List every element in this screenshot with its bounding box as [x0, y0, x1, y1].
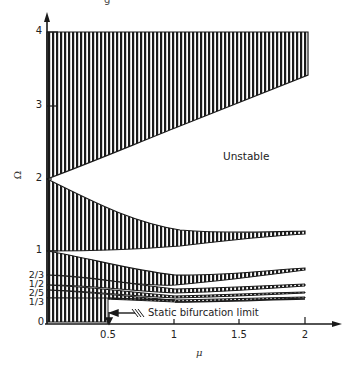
x-tick-label-0-5: 0.5: [96, 330, 120, 340]
tongue-omega-2-lower: [47, 179, 305, 251]
y-tick-label-4: 4: [18, 26, 42, 36]
y-tick-label-3: 3: [18, 100, 42, 110]
y-tick-label-1: 1: [18, 245, 42, 255]
static-unstable-region: [47, 298, 108, 322]
x-tick-label-1: 1: [162, 330, 186, 340]
x-ticks: [108, 317, 305, 324]
static-bifurcation-limit-label: Static bifurcation limit: [148, 308, 259, 318]
y-axis-title: Ω: [13, 171, 23, 179]
x-axis-arrow-icon: [332, 321, 342, 327]
unstable-label: Unstable: [223, 151, 269, 162]
y-axis-arrow-icon: [44, 12, 50, 22]
cutoff-text: g: [104, 0, 110, 5]
y-tick-label-0: 0: [20, 317, 44, 327]
static-limit-arrow-icon: [106, 309, 144, 324]
x-tick-label-2: 2: [293, 330, 317, 340]
y-tick-label-1-3: 1/3: [20, 297, 44, 307]
x-tick-label-1-5: 1.5: [227, 330, 251, 340]
x-axis-title: μ: [196, 348, 203, 358]
